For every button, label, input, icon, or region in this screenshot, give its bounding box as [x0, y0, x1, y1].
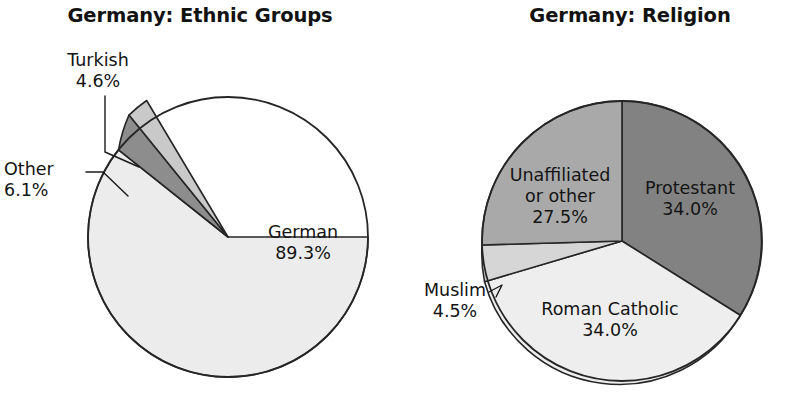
label-protestant-name: Protestant [630, 178, 750, 199]
label-muslim: Muslim 4.5% [413, 280, 497, 322]
label-unaffiliated-value: 27.5% [500, 207, 620, 228]
label-unaffiliated-name-line2: or other [500, 186, 620, 207]
label-roman-catholic-value: 34.0% [520, 320, 700, 341]
label-roman-catholic: Roman Catholic 34.0% [520, 299, 700, 341]
label-unaffiliated-name-line1: Unaffiliated [500, 165, 620, 186]
label-muslim-value: 4.5% [413, 301, 497, 322]
label-protestant-value: 34.0% [630, 199, 750, 220]
chart-canvas: Germany: Ethnic Groups Turkish 4.6% Othe… [0, 0, 797, 398]
label-muslim-name: Muslim [413, 280, 497, 301]
label-unaffiliated: Unaffiliated or other 27.5% [500, 165, 620, 228]
label-roman-catholic-name: Roman Catholic [520, 299, 700, 320]
label-protestant: Protestant 34.0% [630, 178, 750, 220]
